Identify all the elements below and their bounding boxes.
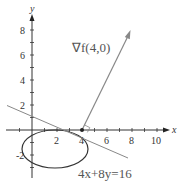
x-axis-label: x: [171, 124, 177, 135]
x-tick-6: 6: [104, 135, 109, 146]
tangent-equation-label: 4x+8y=16: [78, 166, 132, 181]
y-axis-label: y: [29, 3, 35, 14]
tangent-line: [7, 106, 128, 159]
y-tick-2: 2: [20, 100, 25, 111]
y-tick-4: 4: [20, 75, 25, 86]
point-4-0: [80, 128, 84, 132]
x-tick-2: 2: [54, 135, 59, 146]
y-axis: y 8 6 4 2 -2: [16, 3, 35, 178]
gradient-diagram: y 8 6 4 2 -2 x 2 4 6 8 10: [0, 0, 179, 184]
y-tick-6: 6: [20, 50, 25, 61]
gradient-label: ∇f(4,0): [71, 40, 110, 55]
x-tick-10: 10: [151, 135, 161, 146]
y-tick-8: 8: [20, 25, 25, 36]
y-axis-arrow-icon: [30, 14, 35, 21]
x-axis-arrow-icon: [163, 128, 170, 133]
right-angle-marker: [85, 125, 90, 132]
x-tick-8: 8: [129, 135, 134, 146]
y-tick-neg2: -2: [16, 150, 24, 161]
gradient-arrowhead-icon: [125, 30, 131, 39]
